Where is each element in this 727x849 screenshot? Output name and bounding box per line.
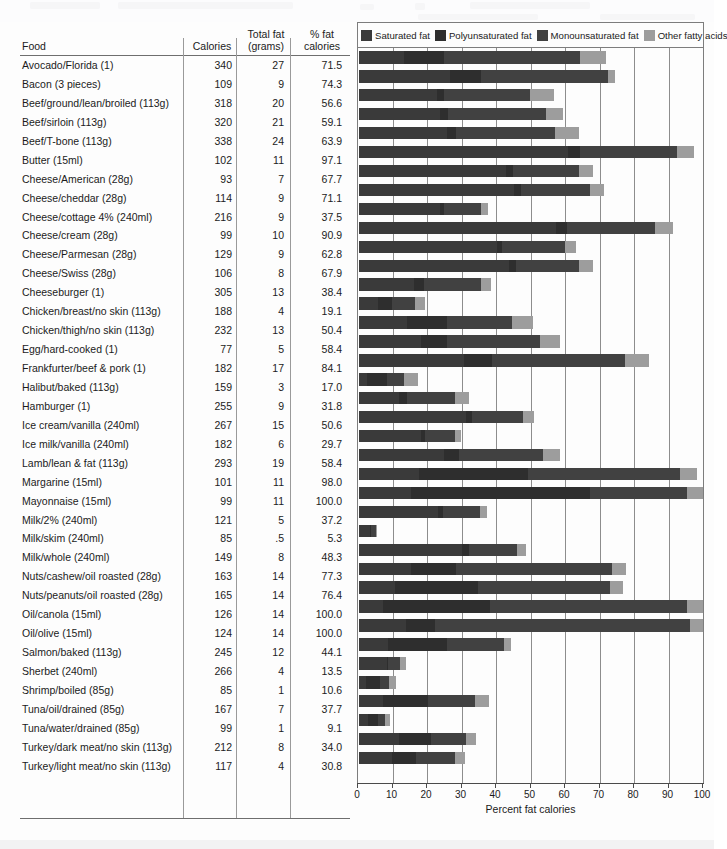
bar-segment-2	[448, 108, 546, 120]
stacked-bar[interactable]	[359, 468, 697, 480]
stacked-bar[interactable]	[359, 619, 704, 631]
cell-pct-fat-calories: 76.4	[296, 586, 342, 605]
bar-segment-2	[478, 581, 610, 593]
tick-mark-40	[495, 783, 496, 788]
cell-total-fat: 24	[240, 132, 284, 151]
bar-segment-2	[516, 260, 579, 272]
bar-segment-0	[359, 260, 509, 272]
bar-segment-1	[368, 714, 378, 726]
stacked-bar[interactable]	[359, 222, 673, 234]
bar-segment-0	[359, 544, 462, 556]
bar-segment-2	[472, 411, 523, 423]
bar-segment-0	[359, 297, 378, 309]
bar-segment-1	[407, 316, 446, 328]
bar-segment-3	[610, 581, 622, 593]
stacked-bar[interactable]	[359, 278, 491, 290]
stacked-bar[interactable]	[359, 430, 461, 442]
cell-total-fat: .5	[240, 529, 284, 548]
stacked-bar[interactable]	[359, 51, 606, 63]
bar-segment-0	[359, 146, 568, 158]
bar-segment-2	[428, 695, 475, 707]
stacked-bar[interactable]	[359, 241, 576, 253]
legend-item-0[interactable]: Saturated fat	[361, 30, 430, 41]
legend-item-2[interactable]: Monounsaturated fat	[537, 30, 639, 41]
bar-segment-1	[411, 487, 590, 499]
stacked-bar[interactable]	[359, 335, 560, 347]
stacked-bar[interactable]	[359, 373, 418, 385]
legend-item-1[interactable]: Polyunsaturated fat	[435, 30, 532, 41]
stacked-bar[interactable]	[359, 411, 534, 423]
bar-segment-1	[392, 752, 416, 764]
stacked-bar[interactable]	[359, 146, 694, 158]
cell-pct-fat-calories: 10.6	[296, 681, 342, 700]
stacked-bar[interactable]	[359, 600, 704, 612]
cell-total-fat: 14	[240, 605, 284, 624]
stacked-bar[interactable]	[359, 525, 377, 537]
stacked-bar[interactable]	[359, 260, 593, 272]
bar-segment-3	[540, 335, 561, 347]
bar-row	[358, 446, 704, 465]
bar-segment-3	[590, 184, 604, 196]
tick-mark-50	[530, 783, 531, 788]
cell-calories: 124	[186, 624, 232, 643]
stacked-bar[interactable]	[359, 392, 469, 404]
cell-total-fat: 9	[240, 189, 284, 208]
stacked-bar[interactable]	[359, 487, 704, 499]
legend-item-3[interactable]: Other fatty acids	[644, 30, 727, 41]
cell-food: Margarine (15ml)	[22, 473, 102, 492]
cell-pct-fat-calories: 100.0	[296, 492, 342, 511]
cell-total-fat: 13	[240, 321, 284, 340]
cell-calories: 114	[186, 189, 232, 208]
stacked-bar[interactable]	[359, 676, 396, 688]
stacked-bar[interactable]	[359, 89, 554, 101]
bar-row	[358, 218, 704, 237]
tick-label-30: 30	[455, 789, 466, 800]
bar-segment-2	[459, 449, 544, 461]
cell-pct-fat-calories: 34.0	[296, 738, 342, 757]
cell-pct-fat-calories: 59.1	[296, 113, 342, 132]
cell-calories: 99	[186, 719, 232, 738]
stacked-bar[interactable]	[359, 127, 579, 139]
cell-calories: 101	[186, 473, 232, 492]
cell-total-fat: 11	[240, 492, 284, 511]
stacked-bar[interactable]	[359, 563, 626, 575]
stacked-bar[interactable]	[359, 544, 526, 556]
cell-pct-fat-calories: 37.5	[296, 208, 342, 227]
bar-segment-3	[404, 373, 418, 385]
stacked-bar[interactable]	[359, 165, 593, 177]
stacked-bar[interactable]	[359, 733, 476, 745]
bar-segment-3	[376, 525, 378, 537]
cell-calories: 159	[186, 378, 232, 397]
stacked-bar[interactable]	[359, 638, 511, 650]
stacked-bar[interactable]	[359, 657, 406, 669]
cell-food: Cheese/cottage 4% (240ml)	[22, 208, 152, 227]
stacked-bar[interactable]	[359, 695, 489, 707]
cell-calories: 305	[186, 283, 232, 302]
stacked-bar[interactable]	[359, 354, 649, 366]
cell-food: Hamburger (1)	[22, 397, 90, 416]
bar-row	[358, 427, 704, 446]
cell-pct-fat-calories: 62.8	[296, 245, 342, 264]
bar-segment-3	[389, 676, 396, 688]
bar-segment-2	[513, 165, 579, 177]
stacked-bar[interactable]	[359, 506, 487, 518]
stacked-bar[interactable]	[359, 316, 533, 328]
stacked-bar[interactable]	[359, 203, 488, 215]
bar-row	[358, 86, 704, 105]
bar-row	[358, 559, 704, 578]
cell-food: Ice cream/vanilla (240ml)	[22, 416, 139, 435]
cell-food: Avocado/Florida (1)	[22, 56, 113, 75]
stacked-bar[interactable]	[359, 752, 465, 764]
stacked-bar[interactable]	[359, 184, 604, 196]
stacked-bar[interactable]	[359, 714, 390, 726]
bar-row	[358, 256, 704, 275]
bar-segment-0	[359, 600, 383, 612]
stacked-bar[interactable]	[359, 581, 623, 593]
bar-segment-2	[447, 638, 504, 650]
stacked-bar[interactable]	[359, 297, 425, 309]
bar-row	[358, 389, 704, 408]
stacked-bar[interactable]	[359, 70, 615, 82]
stacked-bar[interactable]	[359, 449, 560, 461]
stacked-bar[interactable]	[359, 108, 563, 120]
cell-calories: 320	[186, 113, 232, 132]
